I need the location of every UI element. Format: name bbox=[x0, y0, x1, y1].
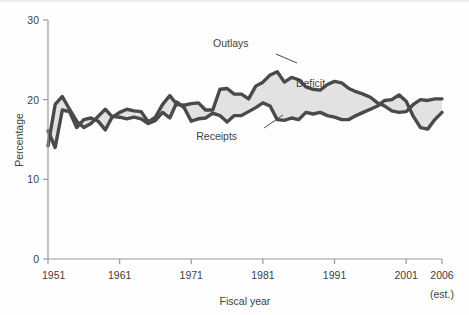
y-tick-label: 0 bbox=[33, 253, 39, 265]
budget-area-chart: 0102030 1951196119711981199120012006 (es… bbox=[0, 0, 469, 315]
x-tick-label: 1981 bbox=[251, 269, 275, 281]
y-tick-label: 10 bbox=[27, 173, 39, 185]
x-axis-title: Fiscal year bbox=[220, 295, 271, 307]
x-tick-label: 2006 bbox=[430, 269, 454, 281]
deficit-label: Deficit bbox=[296, 77, 325, 89]
y-tick-label: 20 bbox=[27, 94, 39, 106]
x-tick-label: 2001 bbox=[395, 269, 419, 281]
top-divider-rule bbox=[0, 0, 469, 3]
y-tick-label: 30 bbox=[27, 14, 39, 26]
receipts-label: Receipts bbox=[196, 130, 237, 142]
x-tick-label: 1951 bbox=[42, 269, 66, 281]
x-tick-label: 1971 bbox=[180, 269, 204, 281]
y-axis-title: Percentage bbox=[13, 113, 25, 167]
chart-figure: 0102030 1951196119711981199120012006 (es… bbox=[0, 0, 469, 315]
x-tick-label: 1991 bbox=[323, 269, 347, 281]
x-tick-label: 1961 bbox=[108, 269, 132, 281]
outlays-label: Outlays bbox=[213, 37, 249, 49]
x-axis-estimate-note: (est.) bbox=[430, 288, 454, 300]
